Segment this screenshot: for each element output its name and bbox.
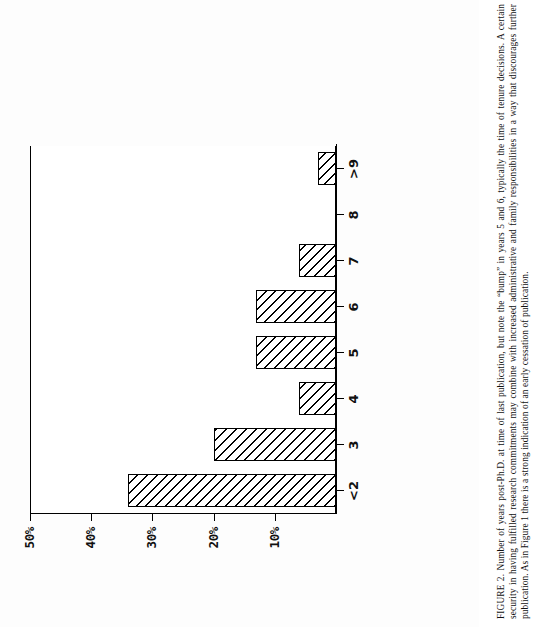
bar-slot-5 <box>30 238 336 284</box>
bar-slot-7 <box>30 146 336 192</box>
category-tick-3 <box>336 352 344 353</box>
axis-tick-label-20: 20% <box>205 527 220 548</box>
category-tick-7 <box>336 168 344 169</box>
category-tick-4 <box>336 306 344 307</box>
category-label-4: 6 <box>346 287 361 327</box>
bar-slot-2 <box>30 376 336 422</box>
axis-tick-label-30: 30% <box>144 527 159 548</box>
bar-slot-4 <box>30 284 336 330</box>
category-label-5: 7 <box>346 241 361 281</box>
bar-6 <box>256 290 336 323</box>
category-tick-2 <box>336 398 344 399</box>
category-tick-1 <box>336 444 344 445</box>
figure-caption-block: FIGURE 2. Number of years post-Ph.D. at … <box>477 0 533 627</box>
category-label-3: 5 <box>346 333 361 373</box>
bar-chart: 50% 40% 30% 20% 10% <box>22 76 402 576</box>
axis-tick-label-50: 50% <box>22 527 37 548</box>
bar-slot-6 <box>30 192 336 238</box>
bar-slot-0 <box>30 468 336 514</box>
bar-slot-1 <box>30 422 336 468</box>
axis-tick-label-40: 40% <box>83 527 98 548</box>
category-label-0: <2 <box>346 471 361 511</box>
bar-4 <box>299 382 336 415</box>
bar-5 <box>256 336 336 369</box>
bar-gt9 <box>317 152 335 185</box>
figure-caption-text: FIGURE 2. Number of years post-Ph.D. at … <box>495 4 531 619</box>
category-tick-0 <box>336 490 344 491</box>
bar-slot-3 <box>30 330 336 376</box>
bar-series <box>30 146 336 514</box>
axis-tick-label-10: 10% <box>266 527 281 548</box>
bar-lt2 <box>127 474 335 507</box>
category-tick-6 <box>336 214 344 215</box>
category-label-6: 8 <box>346 195 361 235</box>
bar-3 <box>213 428 335 461</box>
category-label-2: 4 <box>346 379 361 419</box>
category-label-1: 3 <box>346 425 361 465</box>
bar-7 <box>299 244 336 277</box>
category-tick-5 <box>336 260 344 261</box>
category-label-7: >9 <box>346 149 361 189</box>
